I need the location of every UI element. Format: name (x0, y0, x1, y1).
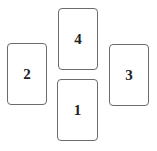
card-number-4: 4 (74, 31, 82, 48)
card-number-2: 2 (23, 66, 31, 83)
card-3: 3 (109, 44, 149, 106)
card-2: 2 (7, 43, 47, 105)
card-number-1: 1 (74, 102, 82, 119)
card-1: 1 (57, 79, 98, 141)
card-4: 4 (58, 8, 98, 70)
card-number-3: 3 (125, 67, 133, 84)
